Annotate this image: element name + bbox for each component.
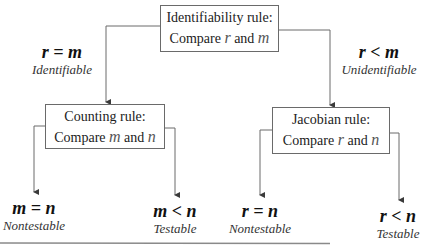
compare-label: Compare <box>54 130 105 145</box>
leaf-expr: m = n <box>0 198 68 218</box>
condition-expr: r < m <box>334 42 424 62</box>
leaf-expr: m < n <box>146 201 204 221</box>
leaf-expr: r = n <box>226 201 294 221</box>
var-n: n <box>371 131 379 148</box>
leaf-expr: r < n <box>372 206 424 226</box>
leaf-r-less-n: r < n Testable <box>372 206 424 242</box>
leaf-verdict: Testable <box>372 226 424 242</box>
compare-label: Compare <box>283 133 334 148</box>
connector-counting-left <box>34 126 45 192</box>
connector-root-right <box>278 30 330 105</box>
jacobian-rule-box: Jacobian rule: Compare r and n <box>272 107 390 154</box>
condition-verdict: Identifiable <box>20 62 104 78</box>
jacobian-rule-title: Jacobian rule: <box>273 110 389 130</box>
bottom-rule <box>0 243 330 244</box>
connector-counting-right <box>164 128 175 195</box>
var-r: r <box>338 131 344 148</box>
connector-jacobian-left <box>260 130 272 195</box>
decision-tree-diagram: Identifiability rule: Compare r and m r … <box>0 0 424 246</box>
leaf-r-equals-n: r = n Nontestable <box>226 201 294 237</box>
leaf-m-less-n: m < n Testable <box>146 201 204 237</box>
compare-label: Compare <box>170 31 221 46</box>
var-n: n <box>148 128 156 145</box>
condition-expr: r = m <box>20 42 104 62</box>
leaf-verdict: Nontestable <box>226 221 294 237</box>
connector-root-left <box>106 26 160 102</box>
conj-and: and <box>234 31 254 46</box>
condition-identifiable: r = m Identifiable <box>20 42 104 78</box>
counting-rule-title: Counting rule: <box>46 107 164 127</box>
leaf-verdict: Testable <box>146 221 204 237</box>
counting-rule-box: Counting rule: Compare m and n <box>45 104 165 149</box>
identifiability-rule-title: Identifiability rule: <box>161 8 278 28</box>
var-m: m <box>109 128 121 145</box>
leaf-m-equals-n: m = n Nontestable <box>0 198 68 234</box>
var-m: m <box>258 29 270 46</box>
counting-rule-compare: Compare m and n <box>46 127 164 148</box>
condition-verdict: Unidentifiable <box>334 62 424 78</box>
connector-jacobian-right <box>389 133 399 200</box>
conj-and: and <box>124 130 144 145</box>
condition-unidentifiable: r < m Unidentifiable <box>334 42 424 78</box>
var-r: r <box>224 29 230 46</box>
identifiability-rule-compare: Compare r and m <box>161 28 278 49</box>
conj-and: and <box>347 133 367 148</box>
jacobian-rule-compare: Compare r and n <box>273 130 389 151</box>
identifiability-rule-box: Identifiability rule: Compare r and m <box>160 5 279 52</box>
leaf-verdict: Nontestable <box>0 218 68 234</box>
